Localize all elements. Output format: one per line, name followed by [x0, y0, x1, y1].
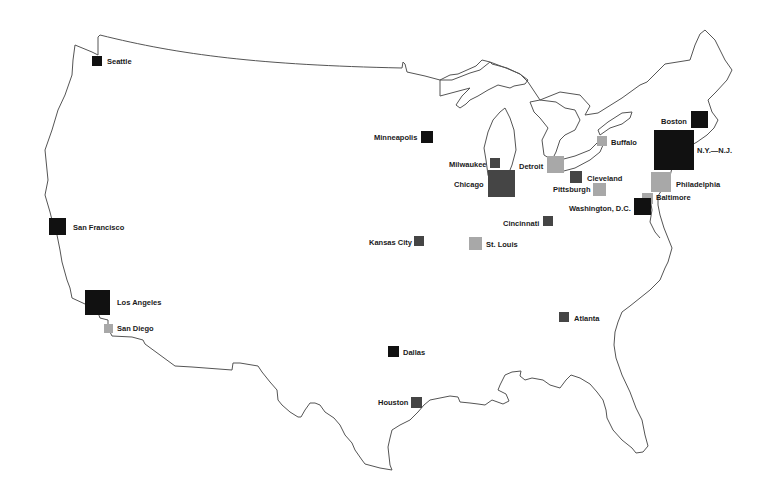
city-marker [469, 237, 482, 250]
city-marker [421, 131, 433, 143]
city-label: Baltimore [656, 193, 691, 202]
city-marker [488, 170, 515, 197]
city-marker [570, 171, 582, 183]
city-label: Cincinnati [503, 219, 539, 228]
city-label: Atlanta [574, 314, 599, 323]
city-label: San Diego [117, 324, 154, 333]
city-marker [651, 172, 671, 192]
city-label: Seattle [107, 57, 132, 66]
city-label: Dallas [403, 348, 425, 357]
us-map-outline [0, 0, 776, 500]
city-label: Milwaukee [449, 160, 487, 169]
city-marker [490, 158, 500, 168]
city-label: Pittsburgh [553, 185, 591, 194]
city-label: Minneapolis [374, 133, 417, 142]
city-marker [547, 156, 564, 173]
city-marker [691, 111, 708, 128]
city-marker [411, 397, 422, 408]
city-label: San Francisco [73, 223, 124, 232]
city-marker [414, 236, 424, 246]
city-label: Philadelphia [676, 180, 720, 189]
city-label: Boston [661, 117, 687, 126]
city-label: Cleveland [587, 174, 622, 183]
city-marker [388, 346, 399, 357]
city-label: N.Y.—N.J. [697, 146, 732, 155]
city-label: Los Angeles [117, 298, 161, 307]
city-marker [593, 183, 606, 196]
city-marker [597, 136, 607, 146]
lake-huron-outline [530, 100, 580, 160]
city-marker [85, 290, 110, 315]
city-marker [634, 198, 651, 215]
lake-ontario-outline [598, 112, 632, 135]
city-marker [654, 130, 694, 170]
city-label: Detroit [519, 162, 543, 171]
city-label: Washington, D.C. [569, 204, 631, 213]
city-marker [559, 312, 569, 322]
city-label: Buffalo [611, 138, 637, 147]
city-label: Kansas City [369, 238, 412, 247]
city-marker [49, 218, 66, 235]
city-marker [104, 324, 113, 333]
city-label: Houston [378, 398, 408, 407]
city-marker [543, 216, 553, 226]
city-marker [92, 56, 102, 66]
city-label: St. Louis [486, 240, 518, 249]
city-label: Chicago [454, 180, 484, 189]
